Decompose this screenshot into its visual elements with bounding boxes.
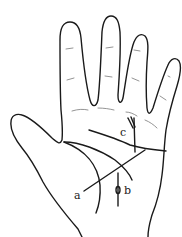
label-b: b [124,184,131,197]
label-a: a [74,189,81,202]
label-c: c [120,126,126,139]
pointer-a [84,150,145,191]
palm-diagram: a b c [0,0,182,237]
